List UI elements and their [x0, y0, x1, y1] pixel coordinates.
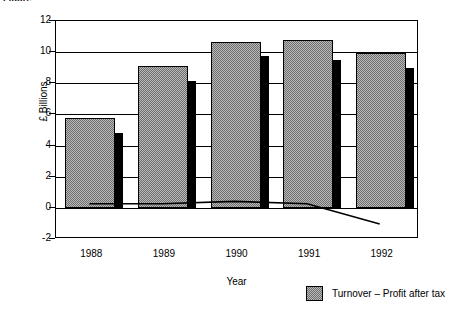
bar-turnover-1989: [138, 66, 188, 208]
bar-turnover-minus-profit-1992: [405, 68, 414, 208]
legend-swatch-turnover: [306, 286, 323, 301]
bar-turnover-1988: [65, 118, 115, 208]
bar-turnover-1992: [356, 53, 406, 208]
clipped-caption-text: Figure: [3, 0, 32, 1]
x-tick-label-1992: 1992: [352, 248, 412, 259]
chart-legend: Turnover – Profit after tax: [306, 286, 445, 301]
x-tick-label-1991: 1991: [279, 248, 339, 259]
y-tick-label-2: 2: [19, 171, 51, 181]
x-tick-label-1990: 1990: [207, 248, 267, 259]
y-tick-label-6: 6: [19, 108, 51, 118]
legend-label-turnover: Turnover – Profit after tax: [332, 288, 445, 299]
y-tick-label-10: 10: [19, 46, 51, 56]
plot-area: [55, 20, 418, 238]
bar-turnover-1991: [283, 40, 333, 208]
y-tick-label-0: 0: [19, 202, 51, 212]
chart-figure: Figure £ Billions -2024681012 1988198919…: [0, 0, 470, 313]
bar-group: [56, 21, 417, 237]
x-tick-label-1988: 1988: [61, 248, 121, 259]
x-axis-title: Year: [207, 276, 267, 287]
y-tick-label-4: 4: [19, 140, 51, 150]
y-tick-label-12: 12: [19, 15, 51, 25]
y-tick-label--2: -2: [19, 233, 51, 243]
bar-turnover-minus-profit-1989: [187, 81, 196, 208]
y-tick-label-8: 8: [19, 77, 51, 87]
bar-turnover-minus-profit-1988: [114, 133, 123, 208]
y-tick-mark--2: [49, 238, 55, 239]
x-tick-label-1989: 1989: [134, 248, 194, 259]
bar-turnover-1990: [211, 42, 261, 208]
bar-turnover-minus-profit-1991: [332, 60, 341, 208]
bar-turnover-minus-profit-1990: [260, 56, 269, 208]
y-axis-title: £ Billions: [38, 57, 49, 147]
